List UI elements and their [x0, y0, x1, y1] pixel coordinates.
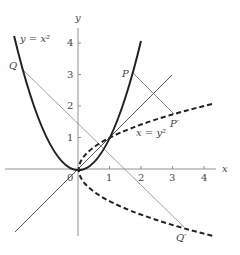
parabola-x-equals-y-squared [79, 104, 213, 236]
reflection-diagram: 1 2 3 4 1 2 3 4 0 x y y = x² x = y² P P′… [0, 0, 240, 255]
reflected-label: x = y² [136, 127, 166, 138]
point-P-label: P [121, 68, 129, 79]
y-tick-label: 4 [67, 37, 73, 48]
segment-Q-Q-prime [22, 69, 184, 227]
x-tick-label: 1 [106, 172, 112, 183]
parabola-label: y = x² [19, 33, 50, 44]
x-tick-label: 4 [201, 172, 207, 183]
point-Q-prime-label: Q′ [176, 232, 187, 243]
parabola-y-equals-x-squared [14, 36, 141, 170]
x-tick-label: 3 [169, 172, 175, 183]
x-tick-label: 2 [138, 172, 144, 183]
y-tick-label: 2 [67, 100, 73, 111]
origin-label: 0 [67, 172, 73, 183]
x-axis-label: x [222, 163, 228, 174]
y-tick-label: 3 [67, 69, 73, 80]
mirror-line-y-equals-x [15, 75, 172, 232]
y-tick-label: 1 [67, 132, 73, 143]
point-Q-label: Q [9, 60, 17, 71]
y-axis-label: y [74, 12, 81, 23]
y-ticks [78, 43, 81, 138]
point-P-prime-label: P′ [169, 118, 180, 129]
